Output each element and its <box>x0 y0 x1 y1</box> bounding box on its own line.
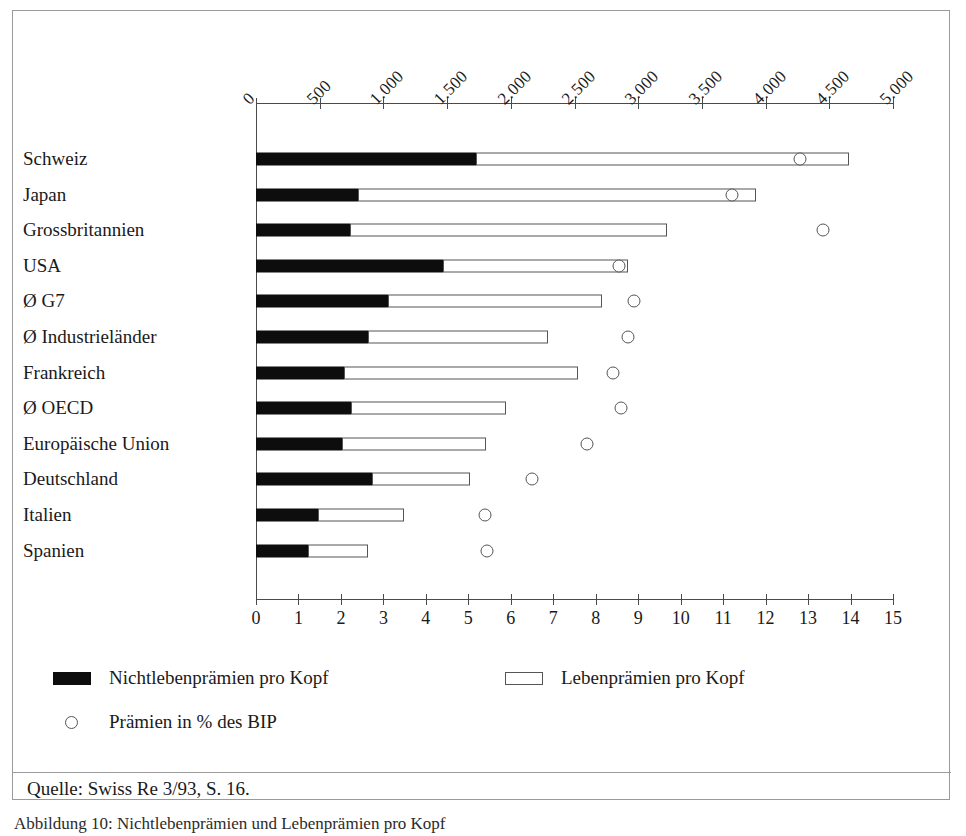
percent-of-gdp-marker <box>793 153 806 166</box>
chart-plot-area: 05001.0001.5002.0002.5003.0003.5004.0004… <box>13 11 951 631</box>
source-note: Quelle: Swiss Re 3/93, S. 16. <box>27 778 250 800</box>
legend-item-life: Lebenprämien pro Kopf <box>505 667 745 689</box>
source-divider <box>13 772 951 773</box>
legend-label-nonlife: Nichtlebenprämien pro Kopf <box>109 667 328 689</box>
outlined-bar-swatch-icon <box>505 672 543 685</box>
percent-of-gdp-marker <box>479 509 492 522</box>
percent-of-gdp-marker <box>621 331 634 344</box>
chart-legend: Nichtlebenprämien pro Kopf Lebenprämien … <box>13 659 951 751</box>
figure-caption: Abbildung 10: Nichtlebenprämien und Lebe… <box>14 814 944 834</box>
percent-of-gdp-marker <box>613 259 626 272</box>
legend-item-nonlife: Nichtlebenprämien pro Kopf <box>53 667 328 689</box>
percent-of-gdp-marker <box>615 402 628 415</box>
percent-markers-layer <box>13 11 951 631</box>
percent-of-gdp-marker <box>725 188 738 201</box>
figure-frame: 05001.0001.5002.0002.5003.0003.5004.0004… <box>12 10 950 800</box>
legend-label-percent: Prämien in % des BIP <box>109 711 277 733</box>
open-circle-marker-icon <box>65 716 78 729</box>
percent-of-gdp-marker <box>481 544 494 557</box>
percent-of-gdp-marker <box>526 473 539 486</box>
legend-item-percent: Prämien in % des BIP <box>53 711 277 733</box>
legend-label-life: Lebenprämien pro Kopf <box>561 667 745 689</box>
filled-bar-swatch-icon <box>53 672 91 685</box>
percent-of-gdp-marker <box>581 437 594 450</box>
percent-of-gdp-marker <box>816 224 829 237</box>
percent-of-gdp-marker <box>627 295 640 308</box>
percent-of-gdp-marker <box>606 366 619 379</box>
